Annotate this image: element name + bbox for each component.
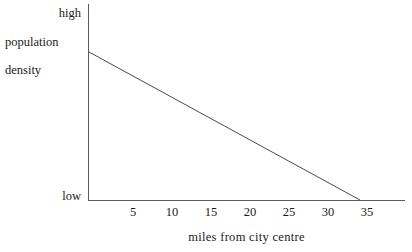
x-tick-label: 15 [196, 205, 226, 219]
x-axis-title: miles from city centre [88, 230, 405, 244]
x-tick-label: 20 [235, 205, 265, 219]
population-density-line [89, 52, 360, 200]
x-tick-label: 35 [352, 205, 382, 219]
x-tick-label: 25 [274, 205, 304, 219]
chart-figure: high low population density 5 10 15 20 2… [0, 0, 412, 252]
x-tick-label: 30 [313, 205, 343, 219]
x-tick-label: 5 [118, 205, 148, 219]
x-tick-label: 10 [157, 205, 187, 219]
